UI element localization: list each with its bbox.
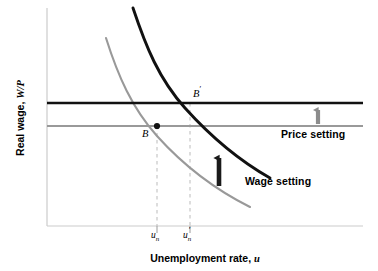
x-axis-label: Unemployment rate, u: [47, 252, 363, 264]
wage-setting-curve-new: [133, 8, 270, 178]
x-tick-label-un: un: [151, 231, 159, 243]
y-axis-label: Real wage, W/P: [14, 62, 26, 174]
tick-un-prime-subscript: n: [188, 235, 192, 243]
y-axis-label-prefix: Real wage,: [14, 99, 26, 156]
y-axis-label-symbol: W/P: [15, 80, 26, 99]
economics-chart-figure: Real wage, W/P Unemployment rate, u un u…: [0, 0, 378, 271]
point-b-prime-mark: ′: [199, 85, 201, 94]
tick-un-subscript: n: [156, 235, 160, 243]
price-setting-label: Price setting: [281, 129, 345, 140]
point-b-marker: [154, 123, 160, 129]
tick-un-prime-mark: ′: [188, 225, 190, 235]
point-b-prime-label: B′: [193, 86, 201, 99]
x-tick-label-un-prime: un′: [183, 231, 193, 243]
x-axis-label-symbol: u: [254, 253, 260, 264]
x-axis-label-prefix: Unemployment rate,: [150, 252, 254, 264]
wage-setting-curve-old: [106, 38, 250, 207]
point-b-label: B: [142, 129, 148, 140]
wage-setting-label: Wage setting: [245, 176, 311, 187]
